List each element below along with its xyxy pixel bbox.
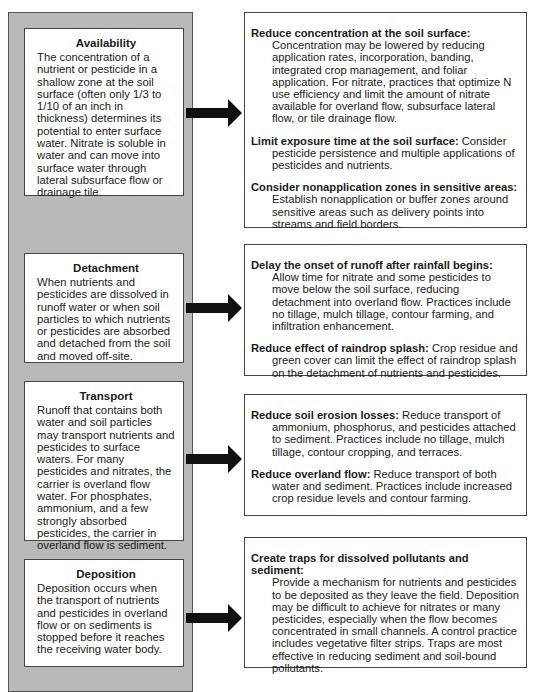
practice-item: Reduce overland flow: Reduce transport o… <box>251 468 520 505</box>
availability-practices-box: Reduce concentration at the soil surface… <box>244 12 527 228</box>
detachment-box: Detachment When nutrients and pesticides… <box>24 253 184 363</box>
availability-title: Availability <box>37 37 175 49</box>
practice-item: Reduce effect of raindrop splash: Crop r… <box>251 342 520 379</box>
transport-box: Transport Runoff that contains both wate… <box>24 381 184 541</box>
practice-heading: Consider nonapplication zones in sensiti… <box>251 181 520 193</box>
practice-item: Consider nonapplication zones in sensiti… <box>251 181 520 230</box>
transport-practices-box: Reduce soil erosion losses: Reduce trans… <box>244 394 527 516</box>
availability-text: The concentration of a nutrient or pesti… <box>37 51 175 199</box>
practice-heading: Reduce soil erosion losses: <box>251 409 399 421</box>
detachment-title: Detachment <box>37 262 175 274</box>
detachment-text: When nutrients and pesticides are dissol… <box>37 276 175 362</box>
deposition-box: Deposition Deposition occurs when the tr… <box>24 559 184 667</box>
practice-text: Provide a mechanism for nutrients and pe… <box>251 576 520 674</box>
transport-title: Transport <box>37 390 175 402</box>
practice-heading: Limit exposure time at the soil surface: <box>251 135 459 147</box>
right-arrow-icon <box>186 99 242 127</box>
right-arrow-icon <box>186 604 242 632</box>
practice-heading: Delay the onset of runoff after rainfall… <box>251 259 520 271</box>
transport-text: Runoff that contains both water and soil… <box>37 404 175 552</box>
practice-item: Delay the onset of runoff after rainfall… <box>251 259 520 332</box>
deposition-title: Deposition <box>37 568 175 580</box>
deposition-practices-box: Create traps for dissolved pollutants an… <box>244 537 527 668</box>
practice-text: Allow time for nitrate and some pesticid… <box>251 271 520 332</box>
right-arrow-icon <box>186 294 242 322</box>
practice-item: Limit exposure time at the soil surface:… <box>251 135 520 172</box>
practice-text: Concentration may be lowered by reducing… <box>251 39 520 124</box>
practice-item: Create traps for dissolved pollutants an… <box>251 552 520 674</box>
detachment-practices-box: Delay the onset of runoff after rainfall… <box>244 244 527 376</box>
availability-box: Availability The concentration of a nutr… <box>24 28 184 196</box>
practice-heading: Reduce overland flow: <box>251 468 370 480</box>
deposition-text: Deposition occurs when the transport of … <box>37 582 175 656</box>
right-arrow-icon <box>186 445 242 473</box>
practice-heading: Reduce effect of raindrop splash: <box>251 342 429 354</box>
practice-heading: Reduce concentration at the soil surface… <box>251 27 520 39</box>
practice-item: Reduce concentration at the soil surface… <box>251 27 520 125</box>
practice-heading: Create traps for dissolved pollutants an… <box>251 552 520 576</box>
practice-item: Reduce soil erosion losses: Reduce trans… <box>251 409 520 458</box>
practice-text: Establish nonapplication or buffer zones… <box>251 193 520 230</box>
